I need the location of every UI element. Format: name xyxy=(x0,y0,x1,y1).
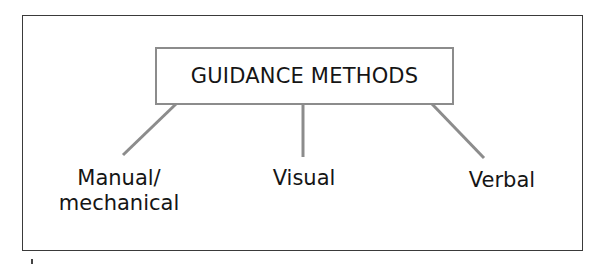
child-node-verbal: Verbal xyxy=(452,168,552,193)
child-node-manual-line-2: mechanical xyxy=(44,191,194,216)
child-node-visual-label: Visual xyxy=(262,166,346,191)
connector-verbal xyxy=(432,104,484,158)
edge-tick-mark xyxy=(31,259,33,264)
root-node: GUIDANCE METHODS xyxy=(155,47,454,105)
connector-manual xyxy=(123,104,176,155)
connector-lines xyxy=(0,0,596,264)
child-node-manual: Manual/ mechanical xyxy=(44,166,194,216)
child-node-manual-line-1: Manual/ xyxy=(44,166,194,191)
root-node-label: GUIDANCE METHODS xyxy=(191,64,419,88)
child-node-verbal-label: Verbal xyxy=(452,168,552,193)
child-node-visual: Visual xyxy=(262,166,346,191)
